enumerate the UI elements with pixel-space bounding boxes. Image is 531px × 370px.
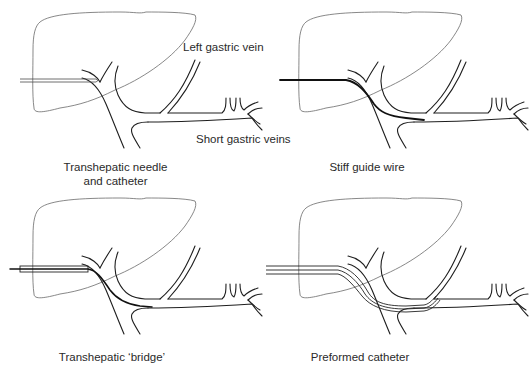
caption-preformed-catheter: Preformed catheter [300,350,420,364]
caption-stiff-guide-wire: Stiff guide wire [312,160,422,174]
panel-preformed-catheter [266,198,528,334]
caption-transhepatic-needle: Transhepatic needle and catheter [58,160,173,188]
panel-transhepatic-bridge [10,198,262,334]
caption-line-2: and catheter [58,174,173,188]
label-short-gastric-veins: Short gastric veins [196,132,291,146]
panel-stiff-guide-wire [280,12,528,148]
caption-transhepatic-bridge: Transhepatic ‘bridge’ [52,350,172,364]
panel-transhepatic-needle [20,12,262,148]
label-left-gastric-vein: Left gastric vein [183,40,264,54]
caption-line-1: Transhepatic needle [58,160,173,174]
